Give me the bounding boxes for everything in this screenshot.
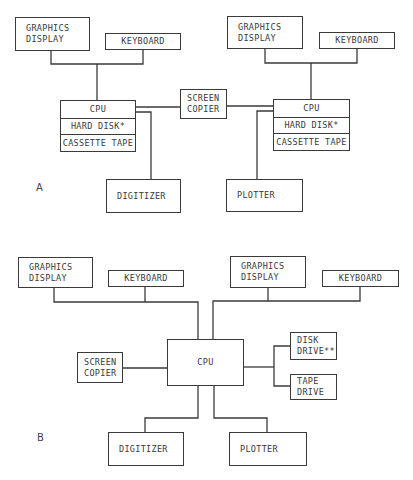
label: DRIVE**	[297, 346, 336, 357]
a-right-cpu-stack: CPU HARD DISK* CASSETTE TAPE	[273, 99, 350, 151]
a-right-keyboard: KEYBOARD	[319, 32, 395, 49]
b-plotter: PLOTTER	[229, 432, 307, 466]
label: DISK	[297, 335, 336, 346]
b-right-graphics-display: GRAPHICS DISPLAY	[230, 256, 306, 288]
label: DISPLAY	[29, 273, 92, 284]
cpu-row: CPU	[61, 101, 135, 119]
b-disk-drive: DISK DRIVE**	[290, 332, 337, 360]
label: KEYBOARD	[335, 35, 378, 46]
b-screen-copier: SCREEN COPIER	[77, 352, 123, 383]
label: SCREEN	[187, 93, 226, 104]
label: DRIVE	[297, 387, 336, 398]
b-left-graphics-display: GRAPHICS DISPLAY	[18, 257, 93, 288]
label: DISPLAY	[238, 33, 302, 44]
cassette-tape-row: CASSETTE TAPE	[61, 135, 135, 151]
label: TAPE	[297, 376, 336, 387]
b-left-keyboard: KEYBOARD	[108, 270, 184, 287]
label: HARD DISK*	[71, 121, 125, 132]
label: CPU	[90, 104, 106, 115]
label: HARD DISK*	[284, 120, 338, 131]
label: GRAPHICS	[241, 261, 305, 272]
b-tape-drive: TAPE DRIVE	[290, 374, 337, 400]
label: GRAPHICS	[29, 262, 92, 273]
label: KEYBOARD	[121, 36, 164, 47]
label: KEYBOARD	[124, 273, 167, 284]
connection-lines	[0, 0, 413, 480]
label: PLOTTER	[240, 444, 306, 455]
cassette-tape-row: CASSETTE TAPE	[274, 134, 349, 150]
label: DIGITIZER	[119, 444, 183, 455]
hard-disk-row: HARD DISK*	[274, 118, 349, 134]
a-plotter: PLOTTER	[226, 179, 303, 212]
label: PLOTTER	[237, 190, 302, 201]
a-left-keyboard: KEYBOARD	[105, 33, 181, 50]
a-left-cpu-stack: CPU HARD DISK* CASSETTE TAPE	[60, 100, 136, 152]
a-digitizer: DIGITIZER	[106, 179, 181, 213]
label: CASSETTE TAPE	[63, 138, 133, 149]
label: GRAPHICS	[26, 23, 89, 34]
diagram-b-label: B	[37, 432, 44, 443]
label: KEYBOARD	[339, 273, 382, 284]
a-screen-copier: SCREEN COPIER	[180, 89, 227, 119]
label: DISPLAY	[241, 272, 305, 283]
label: DISPLAY	[26, 34, 89, 45]
b-cpu: CPU	[167, 339, 244, 386]
label: COPIER	[84, 368, 122, 379]
label: DIGITIZER	[117, 191, 180, 202]
a-right-graphics-display: GRAPHICS DISPLAY	[227, 16, 303, 49]
b-right-keyboard: KEYBOARD	[322, 270, 399, 287]
cpu-row: CPU	[274, 100, 349, 118]
label: CPU	[303, 103, 319, 114]
label: COPIER	[187, 104, 226, 115]
label: CPU	[197, 357, 213, 368]
label: CASSETTE TAPE	[276, 137, 346, 148]
label: SCREEN	[84, 357, 122, 368]
label: GRAPHICS	[238, 22, 302, 33]
hard-disk-row: HARD DISK*	[61, 119, 135, 135]
b-digitizer: DIGITIZER	[108, 432, 184, 466]
diagram-a-label: A	[36, 182, 43, 193]
a-left-graphics-display: GRAPHICS DISPLAY	[15, 17, 90, 51]
